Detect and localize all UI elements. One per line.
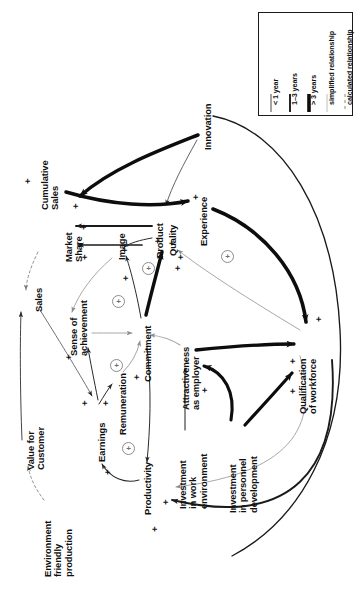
polarity-plus: + [153,238,163,243]
edge-value-for-customer-sales [20,312,22,440]
polarity-plus: + [23,178,33,183]
diagram-canvas: Innovation Cumulative Sales Market Share… [0,0,361,595]
polarity-plus: + [161,499,171,504]
node-sales[interactable]: Sales [34,288,44,312]
node-value-for-customer[interactable]: Value for Customer [26,427,47,470]
polarity-plus: + [150,526,160,531]
loop-marker-reinforcing: + [122,442,135,455]
node-experience[interactable]: Experience [199,197,209,246]
edge-environment-friendly-value-for-customer [28,466,44,500]
node-cumulative-sales[interactable]: Cumulative Sales [40,160,61,210]
loop-marker-symbol: + [113,296,124,307]
polarity-plus: + [101,400,111,405]
polarity-plus: + [79,224,89,229]
polarity-plus: + [132,374,142,379]
edge-market-share-sales [26,252,38,290]
polarity-plus: + [103,469,113,474]
loop-marker-reinforcing: + [112,295,125,308]
node-environment-friendly-production[interactable]: Environment friendly production [43,521,74,577]
polarity-plus: + [80,400,90,405]
polarity-plus: + [121,275,131,280]
node-innovation[interactable]: Innovation [203,104,213,150]
relationship-legend: < 1 year 1–3 years > 3 years simplified … [258,12,353,116]
polarity-plus: + [80,254,90,259]
edge-innovation-market-share [80,135,198,196]
edge-investment-personnel-qualification [245,373,292,425]
node-attractiveness-as-employer[interactable]: Attractiveness as employer [181,347,202,410]
edge-attractiveness-commitment [150,335,180,345]
loop-marker-reinforcing: + [110,359,123,372]
loop-marker-reinforcing: + [142,262,155,275]
polarity-plus: + [288,388,298,393]
loop-marker-symbol: + [143,263,154,274]
node-commitment[interactable]: Commitment [143,326,153,382]
polarity-plus: + [167,240,177,245]
polarity-plus: + [288,358,298,363]
polarity-plus: + [64,354,74,359]
node-qualification-of-workforce[interactable]: Qualification of workforce [298,359,319,414]
legend-sample-simplified-relationship [324,94,330,112]
legend-sample-lt-1-year [268,94,274,112]
polarity-plus: + [120,247,130,252]
edge-investment-personnel-attractiveness [204,366,232,420]
node-sense-of-achievement[interactable]: Sense of achievement [69,300,90,356]
node-earnings[interactable]: Earnings [97,423,107,462]
polarity-plus: + [200,387,210,392]
polarity-plus: + [176,254,186,259]
edge-remuneration-commitment [123,341,140,372]
loop-marker-symbol: + [111,360,122,371]
node-productivity[interactable]: Productivity [143,462,153,515]
polarity-plus: + [314,316,324,321]
legend-sample-1-3-years [287,94,293,112]
polarity-plus: + [173,265,183,270]
legend-sample-gt-3-years [305,94,313,112]
edge-attractiveness-qualification [196,344,294,350]
polarity-plus: + [71,203,81,208]
legend-sample-calculated-relationship [342,94,348,112]
polarity-plus: + [191,194,201,199]
edge-commitment-image [126,256,141,318]
loop-marker-symbol: + [222,251,233,262]
node-remuneration[interactable]: Remuneration [118,373,128,435]
node-investment-in-work-environment[interactable]: Investment in work environment [178,454,209,509]
node-investment-in-personnel-development[interactable]: Investment in personnel development [228,456,259,513]
loop-marker-symbol: + [123,443,134,454]
loop-marker-reinforcing: + [221,250,234,263]
